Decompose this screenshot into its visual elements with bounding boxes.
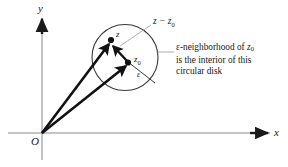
difference-label-subscript: 0 bbox=[172, 21, 175, 28]
caption-line-1-subscript: 0 bbox=[251, 45, 254, 52]
leader-line-difference bbox=[120, 25, 151, 46]
point-z0 bbox=[125, 59, 131, 65]
caption-line-2: is the interior of this bbox=[176, 55, 288, 66]
figure-canvas bbox=[0, 0, 288, 167]
difference-label-main: z − z bbox=[153, 16, 172, 26]
vector-z0-to-z bbox=[113, 46, 128, 62]
difference-label: z − z0 bbox=[153, 17, 175, 28]
complex-plane-neighborhood-figure: y x O z z0 ε z − z0 ε-neighborhood of z0… bbox=[0, 0, 288, 167]
caption-line-1: ε-neighborhood of z0 bbox=[176, 42, 288, 55]
caption-block: ε-neighborhood of z0 is the interior of … bbox=[176, 42, 288, 77]
point-z bbox=[108, 37, 114, 43]
epsilon-radius-segment bbox=[128, 62, 155, 83]
origin-label: O bbox=[31, 136, 39, 147]
point-z0-label: z0 bbox=[134, 55, 141, 66]
point-z0-label-subscript: 0 bbox=[138, 59, 141, 66]
caption-line-1-prefix: ε-neighborhood of bbox=[176, 42, 247, 52]
y-axis-label: y bbox=[38, 3, 43, 14]
point-z-label: z bbox=[116, 30, 120, 39]
epsilon-label: ε bbox=[137, 71, 140, 79]
x-axis-label: x bbox=[274, 127, 279, 138]
caption-line-3: circular disk bbox=[176, 66, 288, 77]
